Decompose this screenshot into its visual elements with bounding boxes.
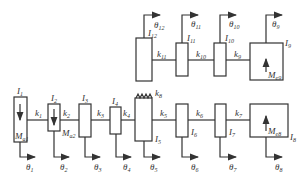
label-I3: I3 [81, 93, 88, 104]
theta1-arrow-icon [20, 142, 35, 157]
label-theta2: θ2 [60, 162, 67, 173]
inertia-I6 [176, 104, 188, 137]
label-theta6: θ6 [191, 162, 198, 173]
label-I8: I8 [289, 132, 296, 143]
inertia-I11 [176, 43, 188, 76]
label-Ma2: Ma2 [61, 128, 76, 139]
label-k11: k11 [157, 49, 167, 60]
label-k10: k10 [196, 49, 206, 60]
theta3-arrow-icon [85, 137, 100, 157]
bottom-row: I1 I2 I3 I4 I5 I6 I7 I8 Ma1 Ma2 Me8 k1 k… [14, 86, 296, 173]
label-k6: k6 [196, 108, 203, 119]
theta6-arrow-icon [182, 137, 198, 157]
label-theta5: θ5 [150, 162, 157, 173]
label-k2: k2 [63, 108, 70, 119]
label-theta1: θ1 [26, 162, 33, 173]
inertia-I5 [135, 98, 152, 141]
label-theta11: θ11 [191, 19, 201, 30]
label-k9: k9 [234, 49, 241, 60]
inertia-I7 [215, 104, 226, 137]
label-theta8: θ8 [275, 162, 282, 173]
label-I9: I9 [284, 38, 291, 49]
inertia-I3 [79, 104, 91, 137]
label-theta10: θ10 [229, 19, 239, 30]
label-I7: I7 [228, 127, 236, 138]
torsional-model-diagram: θ12 I12 θ11 I11 θ10 I10 θ9 I9 Me9 k11 k1… [0, 0, 301, 181]
label-theta4: θ4 [123, 162, 130, 173]
label-theta12: θ12 [154, 20, 164, 31]
label-I10: I10 [224, 33, 234, 44]
label-k4: k4 [123, 108, 130, 119]
inertia-I4 [110, 107, 121, 134]
inertia-I12 [136, 38, 152, 81]
label-I1: I1 [16, 86, 23, 97]
label-k1: k1 [35, 108, 42, 119]
top-row: θ12 I12 θ11 I11 θ10 I10 θ9 I9 Me9 k11 k1… [136, 15, 291, 81]
label-theta9: θ9 [272, 19, 279, 30]
label-k8: k8 [155, 88, 162, 99]
label-I5: I5 [154, 134, 161, 145]
theta8-arrow-icon [266, 137, 282, 157]
label-theta7: θ7 [229, 162, 237, 173]
label-theta3: θ3 [94, 162, 101, 173]
inertia-I10 [214, 43, 226, 76]
label-I11: I11 [186, 33, 196, 44]
label-k3: k3 [97, 108, 104, 119]
theta4-arrow-icon [116, 134, 131, 157]
label-I6: I6 [190, 127, 197, 138]
label-I4: I4 [111, 96, 118, 107]
theta7-arrow-icon [220, 137, 236, 157]
label-k5: k5 [160, 108, 167, 119]
label-I2: I2 [50, 93, 57, 104]
label-k7: k7 [235, 108, 243, 119]
